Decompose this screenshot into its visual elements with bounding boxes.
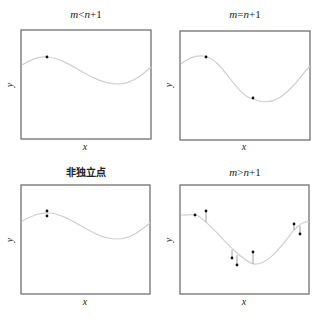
panel-non-independent-points: 非独立点 x y — [4, 166, 150, 307]
data-point — [299, 233, 302, 236]
data-point — [293, 223, 296, 226]
data-point — [205, 210, 208, 213]
data-point — [205, 56, 208, 59]
plot-frame — [180, 185, 309, 294]
panel-title: m=n+1 — [229, 8, 260, 20]
plot-frame — [21, 185, 150, 294]
fit-curve — [181, 215, 309, 265]
y-axis-label: y — [4, 82, 15, 88]
fit-curve — [22, 213, 150, 239]
fit-curve — [22, 57, 151, 84]
data-point — [194, 214, 197, 217]
plot-frame — [180, 31, 310, 140]
data-point — [252, 97, 255, 100]
panel-title: 非独立点 — [66, 166, 106, 178]
panel-title: m>n+1 — [229, 166, 260, 178]
panel-m-equals-n-plus-1: m=n+1 x y — [163, 8, 310, 152]
y-axis-label: y — [4, 237, 15, 243]
x-axis-label: x — [82, 296, 88, 307]
data-point — [46, 215, 49, 218]
y-axis-label: y — [163, 82, 174, 88]
x-axis-label: x — [82, 141, 88, 152]
data-point — [231, 257, 234, 260]
panel-m-greater-than-n-plus-1: m>n+1 x y — [163, 166, 309, 307]
data-point — [236, 264, 239, 267]
figure: m<n+1 x y m=n+1 x y 非独立点 x y m>n+1 — [0, 0, 317, 318]
plot-frame — [21, 30, 151, 139]
y-axis-label: y — [163, 237, 174, 243]
x-axis-label: x — [241, 296, 247, 307]
panel-title: m<n+1 — [70, 8, 101, 20]
panel-m-less-than-n-plus-1: m<n+1 x y — [4, 8, 151, 152]
data-point — [46, 56, 49, 59]
fit-curve — [181, 56, 310, 102]
data-point — [252, 251, 255, 254]
data-point — [46, 210, 49, 213]
x-axis-label: x — [241, 141, 247, 152]
